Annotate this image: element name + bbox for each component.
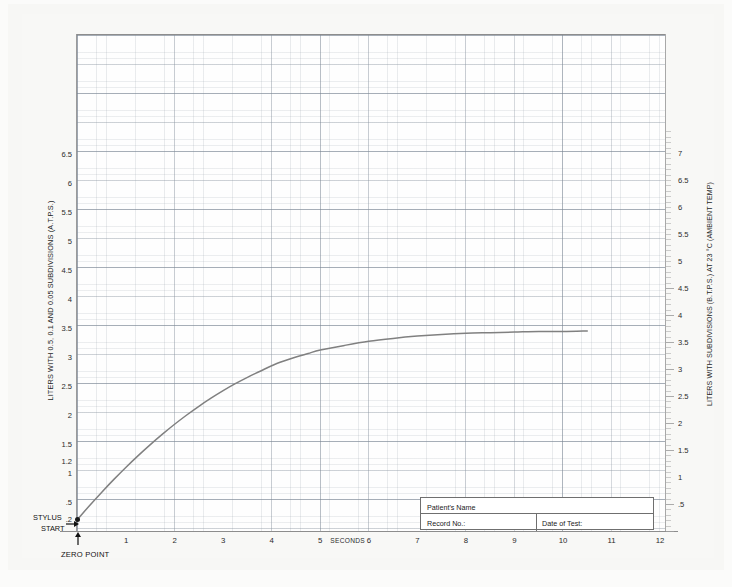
date-of-test-label: Date of Test: [542,519,582,528]
y-axis-right-tick-6: 6 [678,203,682,212]
stylus-start-point-marker [75,517,81,523]
y-axis-right-tick-1p5: 1.5 [678,446,689,455]
y-axis-left-tick-4: 4 [68,295,72,304]
x-axis-tick-6: 6 [367,536,371,545]
y-axis-right-title: LITERS WITH SUBDIVISIONS (B.T.P.S.) AT 2… [706,169,714,419]
x-axis-tick-3: 3 [221,536,225,545]
x-axis-tick-8: 8 [464,536,468,545]
y-axis-left-tick-1p5: 1.5 [61,440,72,449]
y-axis-left-tick-3: 3 [68,353,72,362]
x-axis-tick-4: 4 [270,536,274,545]
y-axis-left-tick-6: 6 [68,179,72,188]
y-axis-right-tick-4: 4 [678,311,682,320]
x-axis-tick-10: 10 [559,536,568,545]
record-no-label: Record No.: [427,519,465,528]
y-axis-left-tick-3p5: 3.5 [61,324,72,333]
y-axis-right-tick-6p5: 6.5 [678,176,689,185]
y-axis-right-tick-2p5: 2.5 [678,392,689,401]
y-axis-right-tick-7: 7 [678,149,682,158]
patient-info-box[interactable]: Patient's Name Record No.: Date of Test: [420,497,654,530]
y-axis-left-tick-5p5: 5.5 [61,208,72,217]
x-axis-tick-2: 2 [172,536,176,545]
y-axis-right-tick-p5: .5 [678,500,684,509]
y-axis-left-tick-2p5: 2.5 [61,382,72,391]
x-axis-tick-11: 11 [608,536,616,545]
x-axis-title: SECONDS [330,537,365,544]
y-axis-left-tick-6p5: 6.5 [61,150,72,159]
y-axis-right-tick-1: 1 [678,473,682,482]
x-axis-tick-1: 1 [124,536,128,545]
y-axis-right-tick-3: 3 [678,365,682,374]
y-axis-left-tick-2: 2 [68,411,72,420]
y-axis-right-tick-5: 5 [678,257,682,266]
y-axis-left-tick-1p2: 1.2 [61,457,72,466]
y-axis-left-tick-p5: .5 [66,498,72,507]
y-axis-left-title: LITERS WITH 0.5, 0.1 AND 0.05 SUBDIVISIO… [46,176,55,426]
annotation-zero-point: ZERO POINT [61,550,109,559]
y-axis-right-tick-4p5: 4.5 [678,284,689,293]
x-axis-tick-12: 12 [656,536,665,545]
y-axis-right-tick-2: 2 [678,419,682,428]
x-axis-tick-7: 7 [415,536,419,545]
x-axis-tick-9: 9 [512,536,516,545]
y-axis-left-tick-5: 5 [68,237,72,246]
y-axis-left-tick-1: 1 [68,469,72,478]
annotation-start: START [41,524,65,533]
y-axis-left-tick-4p5: 4.5 [61,266,72,275]
x-axis-line [60,531,678,532]
patient-name-label: Patient's Name [427,503,476,512]
patient-box-divider [536,514,537,531]
zero-point-arrow-icon [74,531,82,545]
y-axis-right-tick-5p5: 5.5 [678,230,689,239]
annotation-stylus: STYLUS [33,513,62,522]
x-axis-tick-5: 5 [318,536,322,545]
y-axis-right-tick-3p5: 3.5 [678,338,689,347]
spirogram-curve [77,35,666,531]
y-axis-right-tick-labels: .511.522.533.544.555.566.57 [670,0,710,587]
spirometry-chart-page: .2.511.21.522.533.544.555.566.5 .511.522… [0,0,732,587]
